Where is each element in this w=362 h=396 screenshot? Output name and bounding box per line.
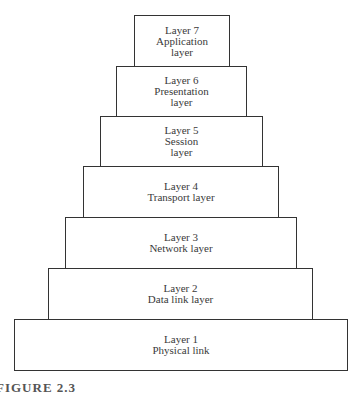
layer-name: Network layer: [149, 243, 212, 254]
layer-5-box: Layer 5Sessionlayer: [100, 116, 263, 167]
layer-name: Data link layer: [148, 294, 213, 305]
layer-name: layer: [171, 47, 193, 58]
layer-2-box: Layer 2Data link layer: [48, 268, 313, 320]
layer-7-box: Layer 7Applicationlayer: [134, 15, 230, 67]
layer-4-box: Layer 4Transport layer: [83, 166, 279, 218]
layer-1-box: Layer 1Physical link: [14, 319, 348, 371]
layer-name: Transport layer: [147, 192, 214, 203]
layer-name: layer: [171, 147, 193, 158]
layer-name: Physical link: [152, 345, 209, 356]
layer-name: Application: [156, 36, 208, 47]
layer-name: layer: [171, 97, 193, 108]
layer-6-box: Layer 6Presentationlayer: [116, 66, 247, 117]
figure-caption: FIGURE 2.3: [0, 380, 76, 396]
layer-number: Layer 7: [165, 25, 199, 36]
layer-3-box: Layer 3Network layer: [65, 217, 297, 269]
